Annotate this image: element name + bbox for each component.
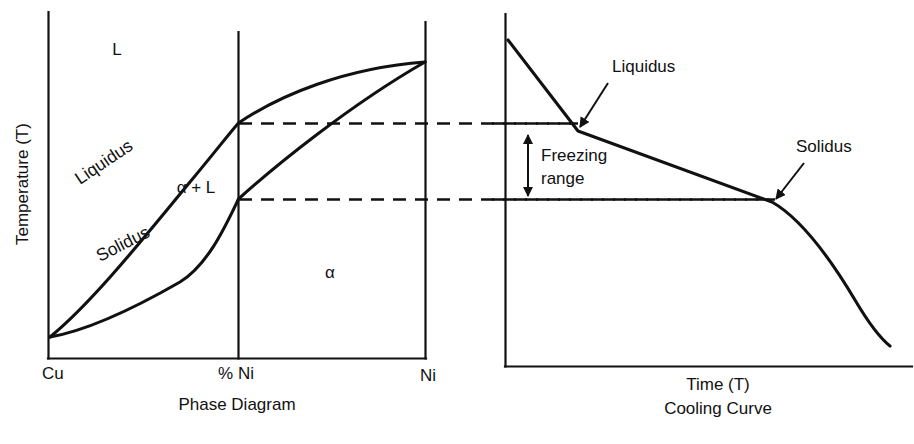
phase-diagram-caption: Phase Diagram: [178, 395, 295, 414]
cooling-curve-caption: Cooling Curve: [664, 399, 772, 418]
freezing-range-label-line1: Freezing: [541, 146, 607, 165]
figure-background: [0, 0, 914, 444]
cooling-x-axis-label: Time (T): [686, 375, 750, 394]
liquidus-callout-label: Liquidus: [612, 57, 675, 76]
solidus-callout-label: Solidus: [796, 137, 852, 156]
region-label-liquid: L: [112, 40, 121, 59]
figure-root: Temperature (T) Cu % Ni Ni L α + L α Liq…: [0, 0, 914, 444]
freezing-range-label-line2: range: [541, 169, 584, 188]
region-label-alpha-plus-liquid: α + L: [177, 178, 216, 197]
metallurgy-figure: Temperature (T) Cu % Ni Ni L α + L α Liq…: [0, 0, 914, 444]
phase-y-axis-label: Temperature (T): [13, 123, 32, 245]
phase-xtick-percent-ni: % Ni: [218, 364, 254, 383]
phase-xtick-ni: Ni: [420, 366, 436, 385]
region-label-alpha: α: [325, 263, 335, 282]
phase-xtick-cu: Cu: [42, 364, 64, 383]
